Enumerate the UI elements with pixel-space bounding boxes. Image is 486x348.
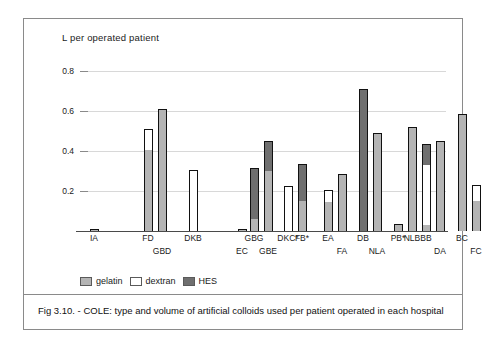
figure-caption: Fig 3.10. - COLE: type and volume of art… — [38, 304, 448, 317]
bar-segment-gelatin — [144, 150, 153, 231]
bar-segment-gelatin — [373, 133, 382, 231]
bar-segment-gelatin — [458, 114, 467, 231]
bar-segment-hes — [422, 144, 431, 165]
x-axis-label: FB* — [295, 233, 309, 243]
legend-item: gelatin — [80, 276, 123, 286]
y-tick-label: 0.2 — [62, 186, 74, 196]
legend-item: dextran — [130, 276, 176, 286]
x-axis-label: NLB — [404, 233, 421, 243]
x-axis-label: FC — [470, 246, 481, 256]
x-axis-label: GBG — [245, 233, 264, 243]
x-axis-label: FA — [337, 246, 347, 256]
bar-segment-gelatin — [324, 202, 333, 231]
bar-segment-dextran — [284, 186, 293, 231]
bar-column — [338, 174, 347, 231]
bar-segment-dextran — [422, 165, 431, 225]
x-axis-label: DB — [357, 233, 369, 243]
bar-segment-gelatin — [408, 127, 417, 231]
bar-segment-gelatin — [436, 141, 445, 231]
bar-segment-gelatin — [338, 174, 347, 231]
bar-column — [144, 129, 153, 231]
x-axis-label: GBE — [259, 246, 277, 256]
bar-segment-dextran — [324, 190, 333, 202]
bar-segment-hes — [250, 168, 259, 219]
chart-plot-area: L per operated patient 0.20.40.60.8 IAFD… — [24, 19, 464, 269]
x-axis-label: EC — [236, 246, 248, 256]
bar-column — [324, 190, 333, 231]
bar-column — [394, 224, 403, 231]
bar-segment-gelatin — [264, 171, 273, 231]
bar-column — [422, 144, 431, 231]
x-axis-label: NLA — [369, 246, 386, 256]
legend-item: HES — [183, 276, 218, 286]
x-axis-label: IA — [90, 233, 98, 243]
dextran-swatch — [130, 277, 142, 286]
bar-segment-dextran — [144, 129, 153, 150]
y-tick-label: 0.4 — [62, 146, 74, 156]
bar-segment-hes — [298, 164, 307, 201]
plot-canvas: 0.20.40.60.8 — [80, 61, 446, 231]
x-axis-label: BB — [420, 233, 431, 243]
bar-segment-gelatin — [472, 201, 481, 231]
bar-column — [408, 127, 417, 231]
bar-column — [158, 109, 167, 231]
bar-segment-hes — [264, 141, 273, 171]
bar-segment-gelatin — [298, 201, 307, 231]
bar-column — [250, 168, 259, 231]
legend-label: HES — [199, 276, 218, 286]
x-axis-label: FD — [142, 233, 153, 243]
x-axis-baseline — [76, 231, 448, 232]
bar-column — [298, 164, 307, 231]
x-axis-labels: IAFDGBDDKBECGBGGBEDKC*FB*EAFADBNLAPB*NLB… — [80, 233, 446, 263]
bar-segment-dextran — [189, 170, 198, 231]
gelatin-swatch — [80, 277, 92, 286]
x-axis-label: DKB — [184, 233, 201, 243]
bar-segment-gelatin — [250, 219, 259, 231]
caption-divider — [24, 294, 462, 295]
bar-column — [264, 141, 273, 231]
bar-column — [458, 114, 467, 231]
bar-segment-gelatin — [158, 109, 167, 231]
x-axis-label: DA — [434, 246, 446, 256]
y-tick-label: 0.8 — [62, 66, 74, 76]
x-axis-label: GBD — [153, 246, 171, 256]
bar-column — [373, 133, 382, 231]
bar-column — [359, 89, 368, 231]
x-axis-label: BC — [456, 233, 468, 243]
legend-label: dextran — [146, 276, 176, 286]
y-tick-label: 0.6 — [62, 106, 74, 116]
bar-column — [436, 141, 445, 231]
bar-column — [472, 185, 481, 231]
bar-segment-dextran — [472, 185, 481, 201]
bars-group — [80, 61, 446, 231]
legend-label: gelatin — [96, 276, 123, 286]
figure-panel: L per operated patient 0.20.40.60.8 IAFD… — [23, 18, 463, 330]
bar-column — [189, 170, 198, 231]
bar-column — [284, 186, 293, 231]
axis-title: L per operated patient — [62, 32, 159, 43]
bar-segment-gelatin — [394, 224, 403, 231]
bar-segment-hes — [359, 89, 368, 231]
chart-legend: gelatindextranHES — [80, 272, 217, 290]
x-axis-label: EA — [322, 233, 333, 243]
hes-swatch — [183, 277, 195, 286]
